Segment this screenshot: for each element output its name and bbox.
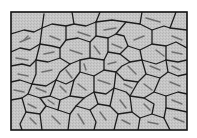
figure bbox=[0, 0, 197, 138]
cell-pattern-diagram bbox=[0, 0, 197, 138]
cells bbox=[11, 12, 187, 130]
